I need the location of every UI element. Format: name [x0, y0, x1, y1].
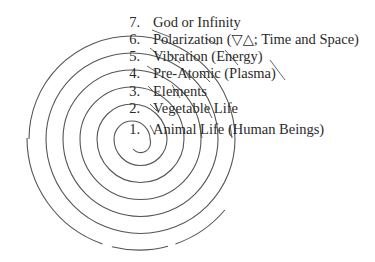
level-label: Animal Life (Human Beings) — [153, 121, 324, 137]
level-number: 2. — [120, 100, 140, 116]
level-number: 5. — [120, 48, 140, 64]
level-number: 6. — [120, 31, 140, 47]
level-number: 3. — [120, 83, 140, 99]
level-label: God or Infinity — [153, 14, 241, 30]
level-number: 1. — [120, 121, 140, 137]
level-label: Polarization (▽△; Time and Space) — [153, 31, 359, 47]
level-label: Pre-Atomic (Plasma) — [153, 65, 276, 81]
level-number: 7. — [120, 14, 140, 30]
level-label: Vegetable Life — [153, 100, 238, 116]
level-number: 4. — [120, 65, 140, 81]
level-label: Elements — [153, 83, 207, 99]
level-label: Vibration (Energy) — [153, 48, 263, 64]
